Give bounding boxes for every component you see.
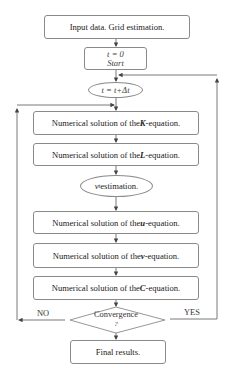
no-label: NO (37, 309, 49, 318)
yes-label: YES (184, 308, 200, 317)
k-equation-box: Numerical solution of the K-equation. (33, 111, 199, 135)
k-suffix: -equation. (146, 118, 181, 128)
nu-suffix: estimation. (100, 181, 138, 191)
final-results-box: Final results. (70, 340, 166, 364)
start-label: Start (107, 59, 124, 68)
final-label: Final results. (96, 347, 140, 357)
start-box: t = 0 Start (84, 47, 147, 70)
time-step-ellipse: t = t+Δt (88, 82, 143, 98)
input-box: Input data. Grid estimation. (44, 15, 190, 39)
c-prefix: Numerical solution of the (52, 283, 140, 293)
u-prefix: Numerical solution of the (52, 218, 140, 228)
v-prefix: Numerical solution of the (53, 251, 141, 261)
time-step-label: t = t+Δt (101, 85, 129, 95)
k-prefix: Numerical solution of the (52, 118, 140, 128)
l-prefix: Numerical solution of the (52, 150, 140, 160)
c-equation-box: Numerical solution of the C-equation. (33, 276, 199, 300)
v-equation-box: Numerical solution of the v-equation. (33, 243, 199, 268)
convergence-text: Convergence (94, 310, 138, 319)
convergence-label: Convergence ? (90, 310, 142, 329)
v-suffix: -equation. (145, 251, 180, 261)
nu-estimation-ellipse: νt estimation. (80, 175, 153, 197)
input-label: Input data. Grid estimation. (70, 22, 165, 32)
l-equation-box: Numerical solution of the L-equation. (33, 143, 199, 166)
c-suffix: -equation. (146, 283, 181, 293)
u-equation-box: Numerical solution of the u-equation. (33, 211, 199, 234)
u-suffix: -equation. (145, 218, 180, 228)
l-suffix: -equation. (145, 150, 180, 160)
convergence-question: ? (114, 320, 118, 328)
